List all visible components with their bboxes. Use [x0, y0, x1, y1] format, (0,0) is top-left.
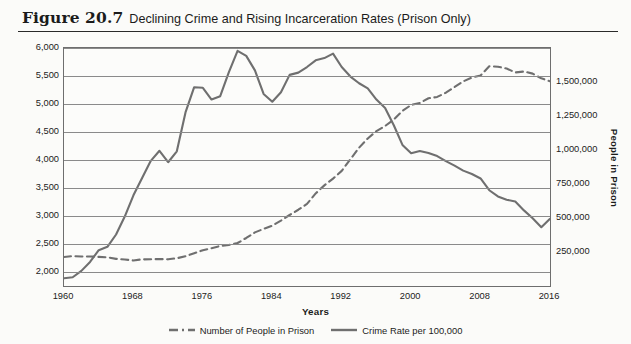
gridline	[64, 76, 550, 77]
x-tick-label: 1984	[261, 291, 282, 301]
x-axis-title: Years	[0, 306, 631, 317]
series-layer	[64, 48, 550, 286]
legend-item[interactable]: Crime Rate per 100,000	[331, 325, 462, 336]
x-tick-label: 1976	[192, 291, 213, 301]
x-tick-label: 2016	[539, 291, 560, 301]
y-tick-label-left: 2,000	[3, 266, 59, 276]
y-tick-label-left: 2,500	[3, 238, 59, 248]
gridline	[64, 188, 550, 189]
x-tick-label: 2000	[400, 291, 421, 301]
y-axis-left-ticks: 2,0002,5003,0003,5004,0004,5005,0005,500…	[0, 47, 59, 287]
y-tick-label-right: 1,500,000	[556, 76, 618, 86]
y-tick-label-left: 3,500	[3, 182, 59, 192]
legend-dashed-line-icon	[169, 326, 195, 334]
gridline	[64, 104, 550, 105]
figure-root: Figure 20.7Declining Crime and Rising In…	[0, 0, 631, 344]
y-tick-label-right: 1,000,000	[556, 144, 618, 154]
y-tick-label-left: 4,500	[3, 126, 59, 136]
legend-label: Number of People in Prison	[200, 325, 315, 336]
x-tick-label: 1968	[122, 291, 143, 301]
y-axis-right-ticks: 250,000500,000750,0001,000,0001,250,0001…	[556, 47, 626, 287]
y-tick-label-right: 250,000	[556, 246, 618, 256]
series-line-prison	[64, 66, 550, 260]
gridline	[64, 216, 550, 217]
figure-title-bar: Figure 20.7Declining Crime and Rising In…	[22, 8, 612, 30]
legend-label: Crime Rate per 100,000	[362, 325, 462, 336]
x-tick-label: 1960	[53, 291, 74, 301]
chart-legend: Number of People in PrisonCrime Rate per…	[0, 322, 631, 338]
gridline	[64, 48, 550, 49]
page-title: Declining Crime and Rising Incarceration…	[129, 12, 471, 26]
y-tick-label-right: 500,000	[556, 212, 618, 222]
gridline	[64, 272, 550, 273]
gridline	[64, 244, 550, 245]
y-tick-label-left: 3,000	[3, 210, 59, 220]
y-tick-label-left: 4,000	[3, 154, 59, 164]
gridline	[64, 132, 550, 133]
y-tick-label-right: 1,250,000	[556, 110, 618, 120]
y-tick-label-left: 6,000	[3, 42, 59, 52]
y-tick-label-left: 5,500	[3, 70, 59, 80]
y-tick-label-right: 750,000	[556, 178, 618, 188]
x-axis-ticks: 19601968197619841992200020082016	[63, 291, 551, 305]
x-tick-label: 1992	[330, 291, 351, 301]
y-tick-label-left: 5,000	[3, 98, 59, 108]
title-divider	[18, 31, 618, 32]
x-tick-label: 2008	[469, 291, 490, 301]
legend-item[interactable]: Number of People in Prison	[169, 325, 315, 336]
legend-solid-line-icon	[331, 326, 357, 334]
figure-number: Figure 20.7	[22, 8, 123, 27]
gridline	[64, 160, 550, 161]
plot-area	[63, 47, 551, 287]
